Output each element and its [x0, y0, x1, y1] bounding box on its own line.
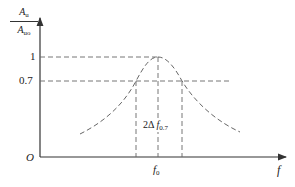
- center-freq-label: f0: [153, 164, 160, 177]
- tick-label-1: 1: [30, 51, 36, 62]
- resonance-curve-diagram: Au Auo 1 0.7 O f f0 2Δ f0.7: [0, 0, 295, 187]
- x-axis-label: f: [277, 164, 280, 176]
- tick-label-07: 0.7: [19, 75, 33, 86]
- bandwidth-label: 2Δ f0.7: [143, 120, 168, 132]
- y-axis-label: Au Auo: [10, 6, 38, 37]
- origin-label: O: [26, 152, 34, 163]
- diagram-canvas: [0, 0, 295, 187]
